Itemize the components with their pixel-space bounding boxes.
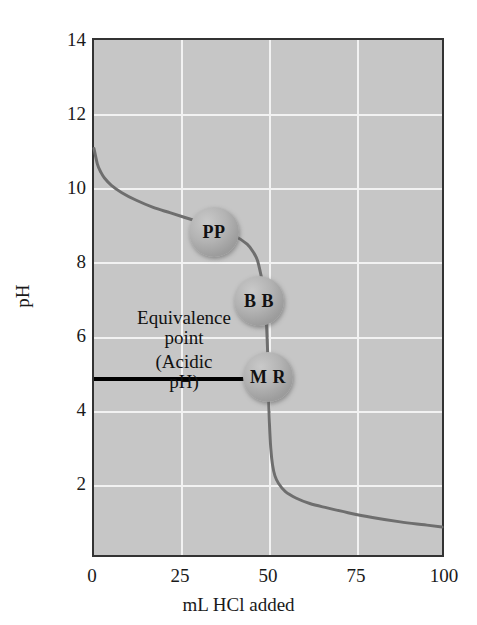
y-tick-8: 8	[38, 252, 86, 271]
y-tick-2: 2	[38, 474, 86, 493]
x-tick-75: 75	[326, 566, 386, 585]
equivalence-label-line-2: point	[100, 328, 268, 348]
y-tick-6: 6	[38, 326, 86, 345]
indicator-marker-bb-label: B B	[244, 291, 274, 312]
y-tick-4: 4	[38, 400, 86, 419]
equivalence-label-line-3: (Acidic	[100, 352, 268, 372]
x-axis-tick-labels: 0 25 50 75 100	[0, 566, 477, 594]
titration-curve-figure: 14 12 10 8 6 4 2 pH Equivalence point (A…	[0, 0, 477, 625]
x-axis-title: mL HCl added	[0, 594, 477, 616]
indicator-marker-pp[interactable]: PP	[189, 207, 239, 257]
y-tick-12: 12	[38, 104, 86, 123]
y-tick-10: 10	[38, 178, 86, 197]
y-tick-14: 14	[38, 30, 86, 49]
indicator-marker-pp-label: PP	[203, 222, 226, 243]
x-tick-100: 100	[414, 566, 474, 585]
y-axis-title: pH	[12, 261, 34, 331]
x-tick-25: 25	[150, 566, 210, 585]
indicator-marker-bb[interactable]: B B	[234, 276, 284, 326]
indicator-marker-mr[interactable]: M R	[243, 352, 293, 402]
x-tick-0: 0	[62, 566, 122, 585]
indicator-marker-mr-label: M R	[250, 367, 286, 388]
x-tick-50: 50	[238, 566, 298, 585]
